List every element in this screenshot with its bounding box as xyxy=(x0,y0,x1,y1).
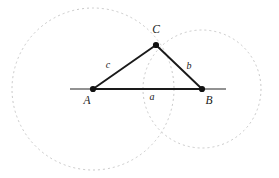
vertex-label-a: A xyxy=(82,94,91,106)
vertex-point-b xyxy=(199,86,205,92)
vertex-label-c: C xyxy=(152,23,160,35)
side-label-c: c xyxy=(106,59,111,70)
side-label-a: a xyxy=(150,91,155,102)
vertex-point-c xyxy=(153,42,159,48)
vertex-point-a xyxy=(90,86,96,92)
side-label-b: b xyxy=(187,60,192,71)
triangle-circles-figure: A B C a b c xyxy=(0,0,279,178)
vertex-label-b: B xyxy=(205,94,212,106)
triangle-side-b xyxy=(156,45,202,89)
geometry-diagram: A B C a b c xyxy=(0,0,279,178)
triangle-side-c xyxy=(93,45,156,89)
